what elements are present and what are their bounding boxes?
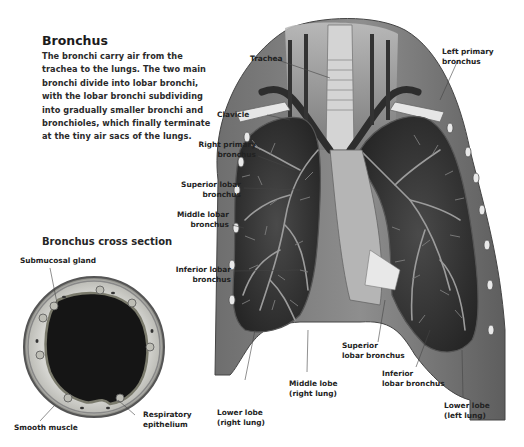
label-text: lobar bronchus [342,351,405,361]
label-text: Trachea [250,54,283,63]
label-text: Clavicle [217,110,249,119]
label-submucosal-gland: Submucosal gland [20,256,96,266]
label-middle-lobar-bronchus: Middle lobar bronchus [144,210,229,230]
label-text: Superior lobar [156,180,241,190]
label-text: Smooth muscle [14,423,78,432]
label-inferior-lobar-bronchus-left: Inferior lobar bronchus [382,369,445,389]
label-text: bronchus [176,150,256,160]
description: The bronchi carry air from the trachea t… [42,50,212,144]
label-text: bronchus [145,275,231,285]
cross-section-title: Bronchus cross section [42,236,172,247]
label-text: Left primary [442,47,494,57]
label-text: bronchus [156,190,241,200]
label-text: Inferior lobar [145,265,231,275]
label-text: bronchus [144,220,229,230]
label-text: Respiratory [143,410,192,420]
label-superior-lobar-bronchus-left: Superior lobar bronchus [342,341,405,361]
label-text: Inferior [382,369,445,379]
label-lower-lobe-right: Lower lobe (right lung) [217,408,265,428]
label-text: epithelium [143,420,192,430]
label-text: (left lung) [444,411,490,421]
label-respiratory-epithelium: Respiratory epithelium [143,410,192,430]
trachea-shape [326,25,354,150]
label-text: Middle lobar [144,210,229,220]
label-trachea: Trachea [250,54,283,64]
label-text: bronchus [442,57,494,67]
label-left-primary-bronchus: Left primary bronchus [442,47,494,67]
label-text: Lower lobe [217,408,265,418]
label-lower-lobe-left: Lower lobe (left lung) [444,401,490,421]
label-text: Superior [342,341,405,351]
label-smooth-muscle: Smooth muscle [14,423,78,433]
label-right-primary-bronchus: Right primary bronchus [176,140,256,160]
label-text: Right primary [176,140,256,150]
label-text: Submucosal gland [20,256,96,265]
label-middle-lobe-right: Middle lobe (right lung) [289,379,338,399]
heading: Bronchus [42,33,108,48]
label-text: lobar bronchus [382,379,445,389]
label-text: Middle lobe [289,379,338,389]
bronchus-cross-section [24,277,164,417]
label-text: Lower lobe [444,401,490,411]
label-text: (right lung) [289,389,338,399]
label-superior-lobar-bronchus: Superior lobar bronchus [156,180,241,200]
label-text: (right lung) [217,418,265,428]
label-clavicle: Clavicle [217,110,249,120]
label-inferior-lobar-bronchus: Inferior lobar bronchus [145,265,231,285]
